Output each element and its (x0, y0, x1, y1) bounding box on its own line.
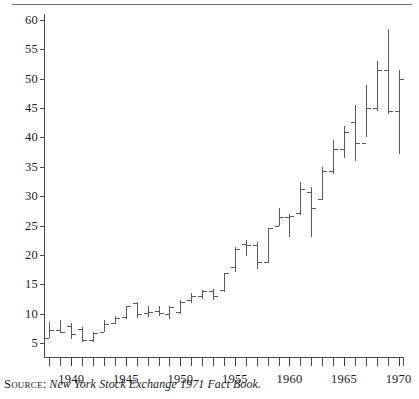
x-axis-tick-mark (257, 358, 258, 366)
open-tick (67, 326, 71, 327)
open-tick (242, 244, 246, 245)
x-axis-tick-mark (246, 358, 247, 366)
high-low-line (235, 247, 236, 272)
close-tick (214, 296, 218, 297)
high-low-line (71, 323, 72, 339)
open-tick (307, 192, 311, 193)
x-axis-tick-label: 1965 (331, 373, 357, 386)
x-axis-tick-mark (289, 357, 290, 366)
x-axis-tick-mark (49, 358, 50, 366)
y-axis-tick-mark (40, 108, 44, 109)
open-tick (395, 111, 399, 112)
x-axis-tick-mark (126, 357, 127, 366)
x-axis-tick-label: 1960 (277, 373, 303, 386)
x-axis-tick-mark (388, 358, 389, 366)
open-tick (78, 329, 82, 330)
y-axis-tick-mark (40, 79, 44, 80)
close-tick (203, 291, 207, 292)
high-low-line (126, 306, 127, 319)
close-tick (236, 249, 240, 250)
y-axis-tick-mark (40, 167, 44, 168)
open-tick (373, 108, 377, 109)
x-axis-tick-mark (224, 358, 225, 366)
open-tick (275, 226, 279, 227)
close-tick (280, 217, 284, 218)
top-divider-rule (12, 4, 412, 5)
close-tick (356, 143, 360, 144)
open-tick (220, 290, 224, 291)
y-axis-line (44, 14, 45, 358)
close-tick (50, 330, 54, 331)
open-tick (111, 323, 115, 324)
high-low-line (300, 182, 301, 216)
y-axis-tick-label: 60 (25, 14, 38, 27)
close-tick (400, 79, 404, 80)
open-tick (296, 213, 300, 214)
y-axis-tick-mark (40, 314, 44, 315)
open-tick (318, 199, 322, 200)
x-axis-tick-mark (159, 358, 160, 366)
high-low-line (388, 29, 389, 114)
x-axis-tick-label: 1970 (386, 373, 412, 386)
x-axis-tick-mark (148, 358, 149, 366)
x-axis-tick-mark (399, 357, 400, 366)
close-tick (323, 171, 327, 172)
y-axis-tick-label: 40 (25, 131, 38, 144)
close-tick (116, 318, 120, 319)
y-axis-tick-label: 55 (25, 43, 38, 56)
close-tick (269, 228, 273, 229)
open-tick (362, 143, 366, 144)
x-axis-tick-mark (311, 358, 312, 366)
y-axis-tick-mark (40, 20, 44, 21)
source-label: Source: (4, 377, 46, 391)
close-tick (105, 324, 109, 325)
x-axis-tick-mark (71, 357, 72, 366)
y-axis-tick-mark (40, 343, 44, 344)
x-axis-tick-mark (137, 358, 138, 366)
open-tick (264, 262, 268, 263)
chart-plot-area: 5101520253035404550556019401945195019551… (44, 14, 404, 358)
x-axis-tick-mark (93, 358, 94, 366)
y-axis-tick-label: 50 (25, 72, 38, 85)
open-tick (155, 311, 159, 312)
high-low-line (289, 214, 290, 238)
x-axis-tick-mark (191, 358, 192, 366)
open-tick (253, 245, 257, 246)
open-tick (89, 340, 93, 341)
x-axis-tick-mark (279, 358, 280, 366)
high-low-line (246, 240, 247, 255)
high-low-line (399, 70, 400, 154)
x-axis-tick-mark (180, 357, 181, 366)
high-low-line (268, 228, 269, 263)
open-tick (384, 70, 388, 71)
close-tick (170, 307, 174, 308)
close-tick (258, 262, 262, 263)
open-tick (285, 217, 289, 218)
open-tick (209, 291, 213, 292)
close-tick (247, 245, 251, 246)
high-low-line (213, 289, 214, 300)
open-tick (133, 303, 137, 304)
close-tick (367, 108, 371, 109)
high-low-line (377, 61, 378, 111)
close-tick (83, 340, 87, 341)
high-low-line (82, 327, 83, 342)
close-tick (378, 70, 382, 71)
x-axis-tick-mark (82, 358, 83, 366)
open-tick (176, 312, 180, 313)
close-tick (312, 208, 316, 209)
x-axis-tick-mark (268, 358, 269, 366)
close-tick (160, 313, 164, 314)
high-low-line (344, 126, 345, 158)
x-axis-tick-mark (322, 358, 323, 366)
x-axis-tick-mark (169, 358, 170, 366)
y-axis-tick-mark (40, 137, 44, 138)
high-low-line (159, 306, 160, 317)
close-tick (94, 333, 98, 334)
open-tick (45, 338, 49, 339)
high-low-line (191, 293, 192, 304)
x-axis-tick-mark (60, 358, 61, 366)
open-tick (165, 314, 169, 315)
x-axis-tick-mark (115, 358, 116, 366)
y-axis-tick-label: 20 (25, 249, 38, 262)
